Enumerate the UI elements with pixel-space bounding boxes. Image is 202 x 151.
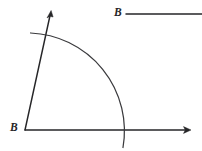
vertex-label-b: B bbox=[10, 122, 18, 134]
ray-label-b: B bbox=[114, 7, 122, 19]
diagram-canvas bbox=[0, 0, 202, 151]
angle-diagram-figure: B B bbox=[0, 0, 202, 151]
